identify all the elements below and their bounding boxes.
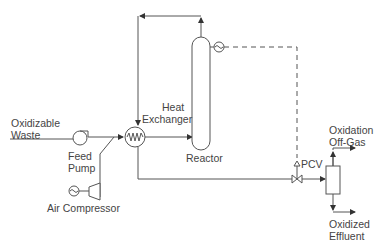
motor-icon [69,186,79,196]
separator-vessel [326,166,340,194]
heat-exchanger-icon [125,127,145,147]
label-oxidizable-waste: Oxidizable Waste [11,117,60,141]
control-signal-line [224,47,297,158]
label-line: Waste [11,129,60,141]
compressor-line [100,137,114,197]
label-line: Off-Gas [329,136,373,148]
label-line: Pump [68,162,95,174]
label-oxidized-effluent: Oxidized Effluent [329,218,370,242]
label-line: Oxidized [329,218,370,230]
label-line: Oxidation [329,124,373,136]
label-air-compressor: Air Compressor [47,202,120,214]
label-oxidation-off-gas: Oxidation Off-Gas [329,124,373,148]
label-reactor: Reactor [186,152,223,164]
reactor-vessel [192,37,210,150]
label-pcv: PCV [301,158,323,170]
air-compressor-icon [89,183,100,200]
label-line: Oxidizable [11,117,60,129]
label-line: Heat [142,101,192,113]
label-heat-exchanger: Heat Exchanger [142,101,192,125]
pressure-sensor-icon [214,42,224,52]
label-line: Exchanger [142,113,192,125]
label-line: Feed [68,150,95,162]
label-feed-pump: Feed Pump [68,150,95,174]
label-line: Effluent [329,230,370,242]
feed-pump-icon [73,131,88,145]
